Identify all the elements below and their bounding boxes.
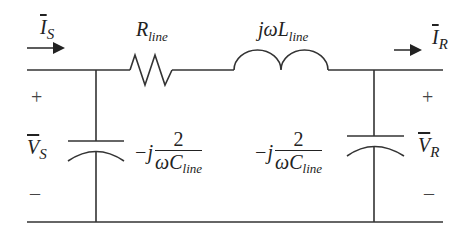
cap-left-prefix: −j xyxy=(134,141,153,163)
inductor-sub: line xyxy=(289,29,309,44)
inductor-symbol xyxy=(234,50,328,70)
cap-right-den-sub: line xyxy=(303,161,323,176)
inductor-base: L xyxy=(278,18,289,40)
plus-right: + xyxy=(422,86,433,109)
cap-left-den-sub: line xyxy=(183,161,203,176)
resistor-base: R xyxy=(136,18,148,40)
cap-right-numerator: 2 xyxy=(275,128,322,151)
cap-left-label: −j 2 ωCline xyxy=(134,128,202,176)
cap-left-denominator: ωCline xyxy=(155,151,202,176)
resistor-sub: line xyxy=(148,29,168,44)
cap-right-prefix: −j xyxy=(254,141,273,163)
right-cap-plate-curved xyxy=(347,147,404,157)
ir-base: I xyxy=(432,26,439,48)
ir-sub: R xyxy=(439,36,448,52)
circuit-wires xyxy=(0,0,469,234)
cap-left-numerator: 2 xyxy=(155,128,202,151)
ir-arrow-icon xyxy=(410,44,422,56)
voltage-vr-label: VR xyxy=(418,134,439,157)
is-arrow-icon xyxy=(53,42,65,54)
minus-right: – xyxy=(424,182,434,205)
current-is-label: IS xyxy=(40,16,54,39)
plus-left: + xyxy=(31,86,42,109)
cap-right-den-base: ωC xyxy=(275,151,302,173)
resistor-label: Rline xyxy=(136,18,168,41)
is-base: I xyxy=(40,16,47,38)
vs-sub: S xyxy=(39,146,47,162)
is-sub: S xyxy=(47,26,55,42)
cap-right-denominator: ωCline xyxy=(275,151,322,176)
vr-sub: R xyxy=(430,144,439,160)
vs-base: V xyxy=(27,136,39,158)
vr-base: V xyxy=(418,134,430,156)
minus-left: – xyxy=(30,182,40,205)
cap-right-label: −j 2 ωCline xyxy=(254,128,322,176)
resistor-symbol xyxy=(130,55,172,85)
voltage-vs-label: VS xyxy=(27,136,47,159)
inductor-prefix: jω xyxy=(258,18,278,40)
pi-circuit-diagram: IS IR Rline jωLline + VS – + VR – −j 2 ω… xyxy=(0,0,469,234)
current-ir-label: IR xyxy=(432,26,448,49)
cap-right-fraction: 2 ωCline xyxy=(275,128,322,176)
inductor-label: jωLline xyxy=(258,18,308,41)
cap-left-fraction: 2 ωCline xyxy=(155,128,202,176)
cap-left-den-base: ωC xyxy=(155,151,182,173)
